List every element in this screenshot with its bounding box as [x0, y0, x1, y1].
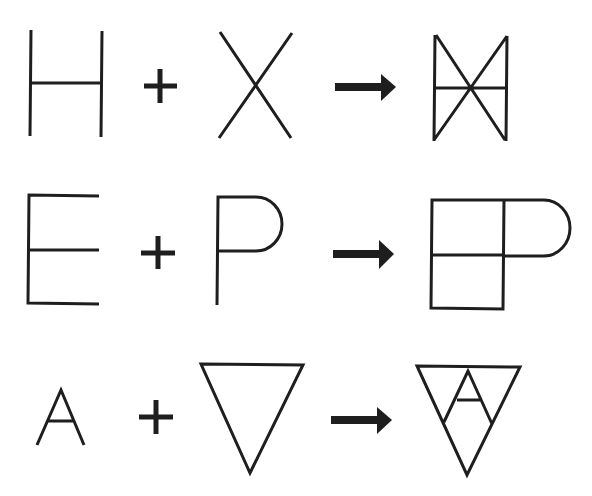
- row-2-right-letter-p: [217, 197, 282, 305]
- row-2: [28, 195, 570, 309]
- row-3-arrow-icon: [331, 407, 392, 434]
- row-1-plus-icon: [144, 69, 177, 103]
- row-3-plus-icon: [139, 400, 173, 434]
- row-2-plus-icon: [141, 236, 175, 269]
- row-3-left-letter-a: [37, 390, 84, 445]
- row-2-result-shape: [431, 200, 570, 309]
- row-3-result-shape: [417, 366, 520, 475]
- row-1-result-shape: [434, 35, 507, 141]
- puzzle-diagram: Letter and shape combination puzzle H + …: [0, 0, 592, 496]
- row-2-left-letter-e: [28, 195, 99, 304]
- row-1: [30, 30, 507, 141]
- row-1-left-letter-h: [30, 30, 102, 137]
- row-1-right-letter-x: [219, 32, 292, 138]
- row-3-right-inverted-triangle: [201, 364, 303, 473]
- row-1-arrow-icon: [335, 74, 396, 101]
- diagram-canvas: [0, 0, 592, 496]
- row-2-arrow-icon: [333, 240, 394, 269]
- row-3: [37, 364, 520, 475]
